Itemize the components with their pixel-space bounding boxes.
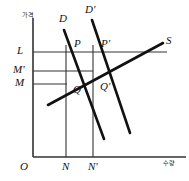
point-label-Qprime: Q': [100, 81, 110, 92]
point-label-P: P: [74, 38, 81, 49]
point-label-Q: Q: [73, 84, 81, 95]
x-tick-label-Nprime: N': [88, 161, 98, 172]
y-tick-label-M: M: [15, 77, 24, 88]
demand-curve-Dprime: [92, 20, 130, 133]
y-tick-label-L: L: [17, 45, 23, 56]
supply-demand-figure: 가격 수량 D D' S P P' Q Q' L M' M N N' O: [0, 0, 189, 181]
y-axis-label: 가격: [22, 12, 29, 18]
x-tick-label-N: N: [62, 161, 69, 172]
y-tick-label-Mprime: M': [13, 64, 25, 75]
curve-label-Dprime: D': [85, 4, 95, 15]
curve-label-S: S: [166, 35, 172, 46]
point-label-Pprime: P': [101, 38, 110, 49]
curve-label-D: D: [59, 13, 67, 24]
origin-label: O: [20, 161, 28, 172]
diagram-canvas: [0, 0, 189, 181]
x-axis-label: 수량: [163, 160, 175, 166]
